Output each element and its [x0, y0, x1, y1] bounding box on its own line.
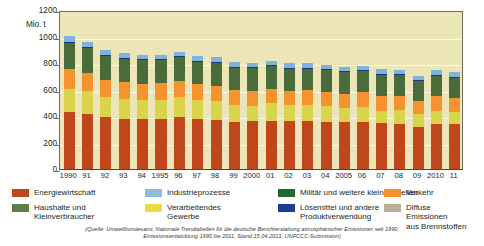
- bar-segment: [64, 69, 75, 89]
- y-tick-label: 200: [29, 139, 57, 147]
- legend-color-swatch: [278, 204, 295, 212]
- bar-column: [155, 10, 166, 169]
- legend-item[interactable]: Lösemittel und andere Produktverwendung: [278, 203, 379, 222]
- emissions-stacked-bar-chart: Mio. t 020040060080010001200 19909192939…: [0, 0, 484, 246]
- bar-segment: [431, 75, 442, 76]
- bar-segment: [321, 65, 332, 70]
- bar-segment: [155, 100, 166, 119]
- bar-segment: [137, 119, 148, 169]
- x-tick-label: 2000: [243, 171, 260, 180]
- bar-segment: [247, 67, 258, 68]
- bar-segment: [339, 94, 350, 108]
- x-tick-label: 99: [229, 171, 237, 180]
- x-tick-label: 1995: [152, 171, 169, 180]
- x-tick-label: 94: [137, 171, 145, 180]
- bar-segment: [174, 81, 185, 97]
- bar-segment: [100, 55, 111, 56]
- y-tick-label: 600: [29, 86, 57, 94]
- bar-segment: [192, 84, 203, 100]
- bar-segment: [64, 42, 75, 44]
- bar-segment: [64, 43, 75, 69]
- bar-segment: [449, 77, 460, 78]
- bar-segment: [211, 57, 222, 62]
- bar-column: [413, 10, 424, 169]
- x-tick-label: 97: [192, 171, 200, 180]
- bar-segment: [100, 97, 111, 117]
- legend-item[interactable]: Verkehr: [384, 188, 434, 197]
- bar-segment: [82, 91, 93, 114]
- bar-column: [100, 10, 111, 169]
- bar-segment: [100, 117, 111, 169]
- bar-segment: [449, 98, 460, 112]
- bar-column: [119, 10, 130, 169]
- bar-segment: [229, 90, 240, 105]
- legend-item[interactable]: Industrieprozesse: [145, 188, 230, 197]
- bar-segment: [137, 59, 148, 60]
- source-line-1: (Quelle: Umweltbundesamt, Nationale Tren…: [40, 226, 444, 233]
- x-tick-label: 02: [284, 171, 292, 180]
- bar-segment: [266, 65, 277, 66]
- x-tick-label: 96: [174, 171, 182, 180]
- x-tick-label: 93: [119, 171, 127, 180]
- bar-column: [449, 10, 460, 169]
- bar-segment: [394, 96, 405, 110]
- bar-segment: [192, 61, 203, 84]
- bar-segment: [266, 66, 277, 89]
- legend-color-swatch: [384, 204, 401, 212]
- bar-segment: [339, 71, 350, 72]
- bar-segment: [431, 70, 442, 74]
- bar-segment: [394, 75, 405, 96]
- bar-segment: [449, 77, 460, 98]
- bar-segment: [266, 61, 277, 66]
- bar-segment: [64, 112, 75, 169]
- bar-segment: [247, 91, 258, 106]
- bar-segment: [155, 119, 166, 169]
- bar-segment: [394, 74, 405, 75]
- bar-column: [394, 10, 405, 169]
- bar-segment: [413, 80, 424, 81]
- bar-segment: [100, 80, 111, 97]
- bar-segment: [321, 70, 332, 92]
- bar-segment: [247, 63, 258, 68]
- bar-segment: [229, 67, 240, 68]
- bar-segment: [229, 62, 240, 67]
- x-tick-label: 98: [211, 171, 219, 180]
- bar-segment: [449, 112, 460, 124]
- bar-segment: [211, 62, 222, 63]
- bar-segment: [100, 50, 111, 55]
- bar-segment: [321, 69, 332, 70]
- bar-segment: [155, 59, 166, 60]
- bar-segment: [155, 83, 166, 99]
- bar-segment: [357, 92, 368, 107]
- bar-segment: [284, 121, 295, 169]
- plot-area: [59, 11, 463, 170]
- bar-segment: [229, 67, 240, 90]
- bar-segment: [137, 55, 148, 60]
- legend-color-swatch: [12, 189, 29, 197]
- bar-segment: [266, 121, 277, 169]
- bar-segment: [413, 114, 424, 127]
- legend-item[interactable]: Energiewirtschaft: [12, 188, 95, 197]
- y-tick-label: 400: [29, 113, 57, 121]
- bar-segment: [229, 105, 240, 122]
- bar-segment: [302, 68, 313, 69]
- legend-item[interactable]: Verarbeitendes Gewerbe: [145, 203, 221, 222]
- bar-segment: [321, 106, 332, 121]
- bar-segment: [302, 121, 313, 169]
- x-tick-label: 09: [413, 171, 421, 180]
- source-line-2: Emissionsentwicklung 1990 bis 2011, Stan…: [40, 233, 444, 240]
- bar-column: [431, 10, 442, 169]
- bar-segment: [376, 74, 387, 95]
- y-tick-label: 1200: [29, 7, 57, 15]
- bar-segment: [174, 97, 185, 118]
- bar-segment: [82, 47, 93, 72]
- x-tick-label: 08: [394, 171, 402, 180]
- bar-segment: [339, 67, 350, 72]
- legend-item[interactable]: Haushalte und Kleinverbraucher: [12, 203, 94, 222]
- bar-column: [284, 10, 295, 169]
- x-tick-label: 1990: [60, 171, 77, 180]
- bar-segment: [82, 47, 93, 48]
- bar-segment: [192, 61, 203, 62]
- bar-segment: [119, 99, 130, 119]
- bar-segment: [413, 127, 424, 169]
